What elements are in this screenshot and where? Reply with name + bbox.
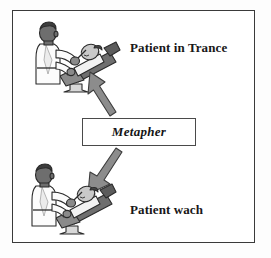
- figure-canvas: Patient in Trance Metapher: [0, 0, 271, 258]
- metaphor-box: Metapher: [82, 118, 196, 146]
- label-patient-wach: Patient wach: [130, 202, 203, 218]
- label-patient-in-trance: Patient in Trance: [130, 40, 227, 56]
- scene-patient-wach: [22, 158, 114, 236]
- metaphor-label: Metapher: [112, 124, 166, 140]
- arrow-up-icon: [86, 68, 124, 120]
